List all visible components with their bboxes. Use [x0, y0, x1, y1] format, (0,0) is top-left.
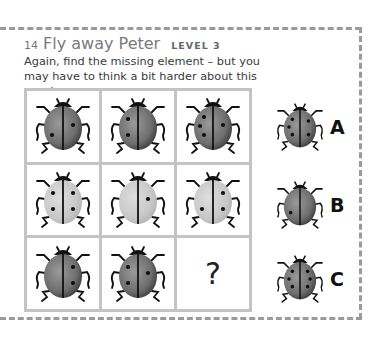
spot	[51, 207, 55, 211]
spot	[71, 207, 75, 211]
spot	[291, 133, 295, 137]
spot	[291, 118, 295, 122]
spot	[287, 125, 291, 129]
option-b[interactable]: B	[272, 178, 344, 232]
grid-cell-r2c2	[102, 165, 174, 236]
spot	[307, 133, 311, 137]
spot	[287, 277, 291, 281]
ladybird-icon	[105, 169, 171, 231]
spot	[126, 117, 130, 121]
spot	[291, 270, 295, 274]
spot	[51, 191, 55, 195]
spot	[71, 265, 75, 269]
ladybird-icon	[105, 95, 171, 157]
spot	[202, 133, 206, 137]
puzzle-number: 14	[24, 39, 38, 52]
puzzle-name: Fly away Peter	[43, 34, 160, 53]
ladybird-icon	[30, 95, 96, 157]
option-label: B	[330, 194, 344, 216]
spot	[146, 271, 150, 275]
spot	[306, 270, 310, 274]
ladybird-icon	[180, 169, 246, 231]
frame-right-border	[359, 27, 362, 319]
spot	[71, 281, 75, 285]
puzzle-grid: ?	[24, 88, 252, 312]
grid-cell-r3c2	[102, 238, 174, 309]
puzzle-level: LEVEL 3	[171, 40, 220, 51]
spot	[221, 207, 225, 211]
ladybird-icon	[272, 178, 328, 232]
spot	[221, 123, 225, 127]
spot	[308, 277, 312, 281]
ladybird-icon	[30, 169, 96, 231]
grid-cell-r1c3	[177, 91, 249, 162]
grid-cell-r3c1	[27, 238, 99, 309]
spot	[71, 123, 75, 127]
frame-top-border	[0, 27, 361, 30]
grid-cell-r1c1	[27, 91, 99, 162]
spot	[307, 119, 311, 123]
option-label: A	[330, 116, 345, 138]
ladybird-icon	[180, 95, 246, 157]
spot	[126, 281, 130, 285]
grid-cell-r2c3	[177, 165, 249, 236]
ladybird-icon	[272, 100, 328, 154]
option-a[interactable]: A	[272, 100, 345, 154]
missing-question-mark: ?	[205, 256, 221, 291]
spot	[146, 197, 150, 201]
option-label: C	[330, 268, 344, 290]
frame-bottom-border	[0, 317, 362, 320]
ladybird-icon	[30, 243, 96, 305]
grid-cell-r1c2	[102, 91, 174, 162]
spot	[289, 211, 293, 215]
spot	[291, 285, 295, 289]
option-c[interactable]: C	[272, 252, 344, 306]
spot	[126, 265, 130, 269]
puzzle-title: 14 Fly away Peter LEVEL 3	[24, 34, 221, 53]
spot	[306, 285, 310, 289]
spot	[71, 191, 75, 195]
grid-cell-missing[interactable]: ?	[177, 238, 249, 309]
grid-cell-r2c1	[27, 165, 99, 236]
spot	[50, 133, 54, 137]
ladybird-icon	[105, 243, 171, 305]
spot	[200, 207, 204, 211]
spot	[221, 191, 225, 195]
ladybird-icon	[272, 252, 328, 306]
spot	[126, 133, 130, 137]
spot	[198, 124, 202, 128]
spot	[202, 115, 206, 119]
